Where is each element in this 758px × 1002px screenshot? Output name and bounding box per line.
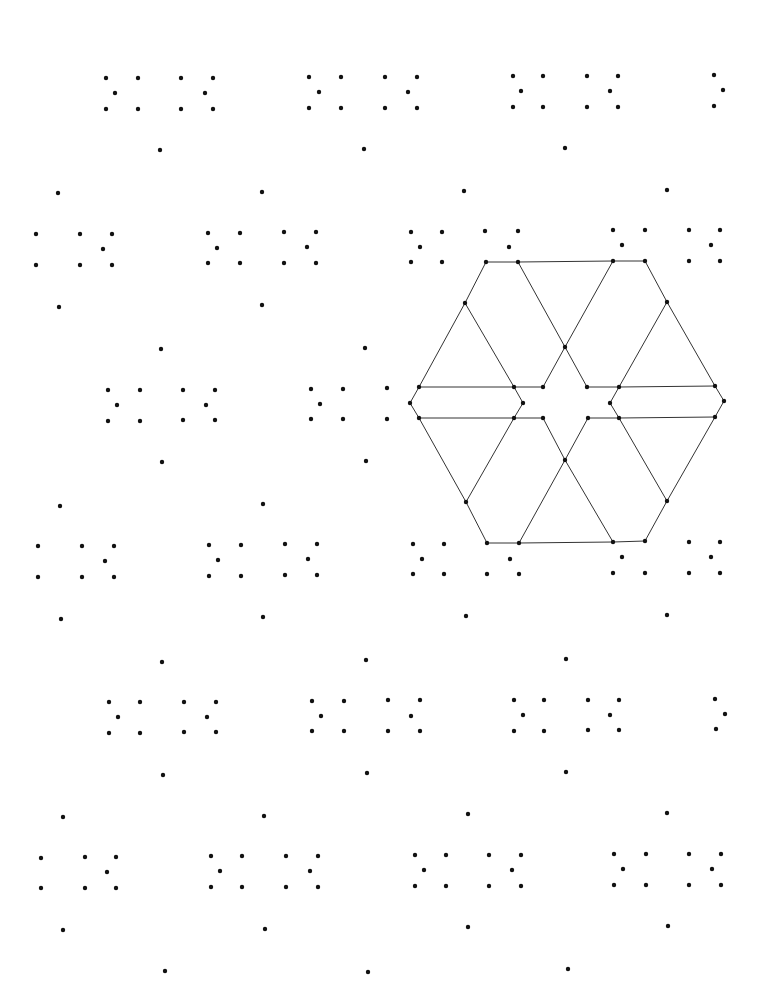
grid-dot (310, 729, 314, 733)
grid-dot (36, 575, 40, 579)
grid-dot (487, 853, 491, 857)
grid-dot (103, 559, 107, 563)
grid-dot (712, 104, 716, 108)
grid-dot (206, 231, 210, 235)
grid-dot (206, 261, 210, 265)
grid-dot (608, 713, 612, 717)
grid-dot (542, 729, 546, 733)
grid-dot (315, 573, 319, 577)
grid-dot (617, 698, 621, 702)
grid-dot (511, 74, 515, 78)
grid-dot (409, 260, 413, 264)
grid-dot (317, 90, 321, 94)
grid-dot (564, 770, 568, 774)
grid-dot (462, 189, 466, 193)
grid-dot (309, 417, 313, 421)
grid-dot (112, 544, 116, 548)
grid-dot (442, 572, 446, 576)
grid-dot (341, 417, 345, 421)
grid-dot (136, 107, 140, 111)
hexagon-vertex-dot (585, 385, 589, 389)
grid-dot (420, 557, 424, 561)
grid-dot (719, 883, 723, 887)
grid-dot (510, 868, 514, 872)
grid-dot (713, 697, 717, 701)
hexagon-vertex-dot (463, 301, 467, 305)
grid-dot (418, 245, 422, 249)
grid-dot (643, 571, 647, 575)
grid-dot (415, 75, 419, 79)
grid-dot (112, 575, 116, 579)
hexagon-vertex-dot (541, 416, 545, 420)
grid-dot (160, 460, 164, 464)
grid-dot (466, 925, 470, 929)
grid-dot (541, 74, 545, 78)
grid-dot (159, 347, 163, 351)
grid-dot (519, 89, 523, 93)
grid-dot (415, 106, 419, 110)
grid-dot (36, 544, 40, 548)
grid-dot (34, 263, 38, 267)
grid-dot (719, 852, 723, 856)
grid-dot (114, 886, 118, 890)
hexagon-vertex-dot (484, 260, 488, 264)
grid-dot (440, 230, 444, 234)
grid-dot (59, 617, 63, 621)
grid-dot (418, 698, 422, 702)
grid-dot (209, 854, 213, 858)
grid-dot (56, 191, 60, 195)
hexagon-vertex-dot (408, 401, 412, 405)
grid-dot (305, 245, 309, 249)
grid-dot (422, 868, 426, 872)
grid-dot (666, 924, 670, 928)
grid-dot (218, 869, 222, 873)
hexagon-vertex-dot (512, 385, 516, 389)
grid-dot (342, 729, 346, 733)
grid-dot (687, 540, 691, 544)
grid-dot (284, 885, 288, 889)
grid-dot (339, 75, 343, 79)
grid-dot (213, 418, 217, 422)
grid-dot (339, 106, 343, 110)
grid-dot (644, 883, 648, 887)
grid-dot (386, 729, 390, 733)
grid-dot (519, 884, 523, 888)
grid-dot (239, 543, 243, 547)
grid-dot (58, 504, 62, 508)
grid-dot (211, 76, 215, 80)
hexagon-vertex-dot (541, 385, 545, 389)
grid-dot (211, 107, 215, 111)
grid-dot (214, 730, 218, 734)
hexagon-vertex-dot (516, 260, 520, 264)
grid-dot (107, 700, 111, 704)
hexagon-vertex-dot (722, 399, 726, 403)
grid-dot (687, 883, 691, 887)
grid-dot (718, 540, 722, 544)
grid-dot (106, 419, 110, 423)
grid-dot (260, 303, 264, 307)
grid-dot (57, 305, 61, 309)
grid-dot (612, 852, 616, 856)
grid-dot (315, 542, 319, 546)
grid-dot (620, 555, 624, 559)
grid-dot (608, 89, 612, 93)
grid-dot (116, 715, 120, 719)
grid-dot (136, 76, 140, 80)
grid-dot (104, 107, 108, 111)
grid-dot (341, 387, 345, 391)
grid-dot (209, 885, 213, 889)
grid-dot (104, 76, 108, 80)
grid-dot (620, 243, 624, 247)
grid-dot (464, 614, 468, 618)
grid-dot (385, 386, 389, 390)
grid-dot (282, 261, 286, 265)
grid-dot (78, 263, 82, 267)
grid-dot (39, 856, 43, 860)
hexagon-vertex-dot (611, 540, 615, 544)
grid-dot (363, 346, 367, 350)
grid-dot (718, 571, 722, 575)
grid-dot (386, 698, 390, 702)
grid-dot (413, 853, 417, 857)
grid-dot (616, 74, 620, 78)
grid-dot (34, 232, 38, 236)
